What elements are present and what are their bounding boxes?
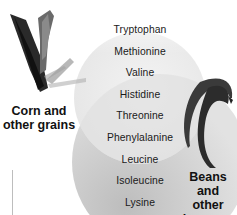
- legumes-label-line: legumes: [178, 212, 237, 215]
- grains-label-line: other grains: [2, 118, 76, 132]
- legumes-label-line: other: [178, 198, 237, 212]
- grains-label-line: Corn and: [2, 104, 76, 118]
- amino-acid: Threonine: [86, 109, 194, 121]
- amino-acid: Tryptophan: [86, 23, 194, 35]
- edge-divider: [12, 170, 13, 215]
- amino-acid: Histidine: [86, 88, 194, 100]
- amino-acid: Valine: [86, 66, 194, 78]
- grains-label: Corn and other grains: [2, 104, 76, 132]
- amino-acid: Phenylalanine: [86, 131, 194, 143]
- amino-acid: Methionine: [86, 45, 194, 57]
- legumes-label: Beans and other legumes: [178, 170, 237, 215]
- venn-diagram: Tryptophan Methionine Valine Histidine T…: [0, 0, 237, 215]
- legumes-label-line: Beans and: [178, 170, 237, 198]
- amino-acid: Leucine: [86, 153, 194, 165]
